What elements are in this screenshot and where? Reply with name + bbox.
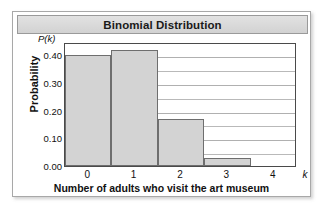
y-tick-label-0.10: 0.10 — [26, 133, 62, 144]
x-tick-label-1: 1 — [122, 169, 146, 180]
bar-1 — [111, 50, 157, 166]
bar-3 — [204, 158, 250, 166]
chart-title: Binomial Distribution — [103, 19, 221, 31]
x-tick-label-0: 0 — [75, 169, 99, 180]
x-axis-tick-labels: 01234 — [0, 169, 323, 183]
bar-2 — [158, 119, 204, 166]
y-tick-label-0.20: 0.20 — [26, 106, 62, 117]
bar-0 — [65, 55, 111, 166]
x-axis-title: Number of adults who visit the art museu… — [12, 182, 311, 194]
x-tick-label-3: 3 — [214, 169, 238, 180]
x-tick-label-2: 2 — [168, 169, 192, 180]
y-tick-label-0.40: 0.40 — [26, 50, 62, 61]
plot-area — [64, 43, 296, 167]
y-tick-label-0.30: 0.30 — [26, 78, 62, 89]
x-tick-label-4: 4 — [261, 169, 285, 180]
x-axis-symbol: k — [296, 169, 314, 180]
